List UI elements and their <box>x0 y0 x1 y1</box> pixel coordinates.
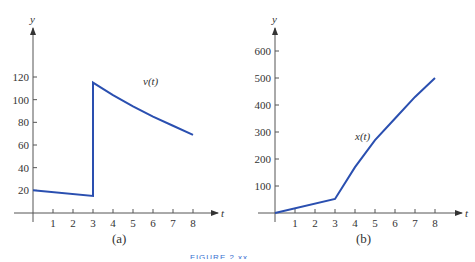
y-axis-label-b: y <box>271 13 277 25</box>
svg-text:4: 4 <box>352 217 358 229</box>
svg-text:8: 8 <box>432 217 438 229</box>
chart-a: y t 12345678 20406080100120 v(t) (a) <box>13 13 226 246</box>
panel-label-b: (b) <box>356 231 371 246</box>
svg-text:20: 20 <box>18 184 30 196</box>
x-axis-label-a: t <box>221 207 225 219</box>
svg-text:2: 2 <box>312 217 318 229</box>
svg-text:60: 60 <box>18 139 30 151</box>
svg-text:4: 4 <box>110 217 116 229</box>
y-axis-label-a: y <box>29 13 35 25</box>
figure-caption: FIGURE 2.xx <box>190 253 248 259</box>
v-t-curve <box>33 83 193 196</box>
svg-text:120: 120 <box>13 71 30 83</box>
svg-text:1: 1 <box>50 217 56 229</box>
svg-text:5: 5 <box>372 217 378 229</box>
x-axis-label-b: t <box>465 207 469 219</box>
svg-text:8: 8 <box>190 217 196 229</box>
svg-text:7: 7 <box>412 217 418 229</box>
svg-text:300: 300 <box>255 126 272 138</box>
svg-text:3: 3 <box>90 217 96 229</box>
svg-text:100: 100 <box>13 94 30 106</box>
x-ticks-b: 12345678 <box>292 209 438 229</box>
panel-label-a: (a) <box>112 231 126 246</box>
v-t-annotation: v(t) <box>143 75 159 88</box>
svg-text:80: 80 <box>18 116 30 128</box>
svg-text:600: 600 <box>255 45 272 57</box>
svg-text:5: 5 <box>130 217 136 229</box>
svg-text:6: 6 <box>150 217 156 229</box>
svg-text:500: 500 <box>255 72 272 84</box>
svg-text:400: 400 <box>255 99 272 111</box>
svg-text:100: 100 <box>255 180 272 192</box>
x-t-annotation: x(t) <box>354 130 371 143</box>
svg-text:200: 200 <box>255 153 272 165</box>
svg-text:40: 40 <box>18 162 30 174</box>
svg-text:1: 1 <box>292 217 298 229</box>
svg-text:7: 7 <box>170 217 176 229</box>
x-ticks-a: 12345678 <box>50 209 196 229</box>
figure: y t 12345678 20406080100120 v(t) (a) y t… <box>0 0 475 262</box>
svg-text:2: 2 <box>70 217 76 229</box>
svg-text:3: 3 <box>332 217 338 229</box>
x-t-curve <box>275 78 435 213</box>
svg-text:6: 6 <box>392 217 398 229</box>
chart-b: y t 12345678 100200300400500600 x(t) (b) <box>255 13 470 246</box>
